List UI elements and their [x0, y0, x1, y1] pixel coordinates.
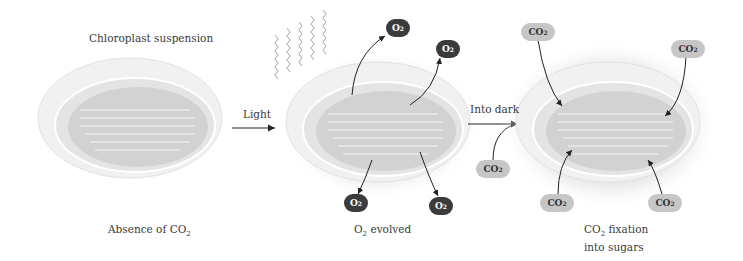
o2-molecule: O2 [429, 197, 453, 215]
co2-molecule: CO2 [671, 40, 705, 58]
o2-molecule: O2 [436, 40, 460, 58]
o2-molecule: O2 [344, 194, 368, 212]
co2-molecule: CO2 [476, 160, 510, 178]
o2-evolved-label: O2 evolved [354, 223, 411, 238]
absence-co2-label: Absence of CO2 [108, 223, 191, 238]
into-dark-label: Into dark [470, 103, 519, 115]
chloroplast-suspension-label: Chloroplast suspension [89, 32, 213, 44]
co2-molecule: CO2 [648, 194, 682, 212]
co2-molecule: CO2 [540, 194, 574, 212]
light-label: Light [243, 108, 271, 120]
co2-molecule: CO2 [521, 23, 555, 41]
co2-fixation-label: CO2 fixation into sugars [584, 223, 648, 254]
o2-molecule: O2 [386, 19, 410, 37]
chloroplast-1 [38, 58, 222, 178]
chloroplast-3 [500, 40, 720, 210]
chloroplast-2 [280, 50, 480, 200]
